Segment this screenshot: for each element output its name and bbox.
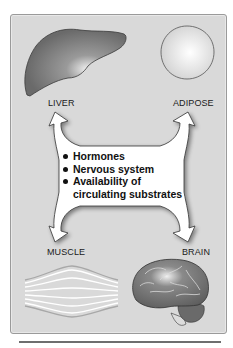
adipose-cell-icon bbox=[161, 26, 214, 79]
brain-icon bbox=[133, 259, 209, 325]
liver-icon bbox=[25, 29, 126, 96]
regulating-factors-list: Hormones Nervous system Availability of … bbox=[62, 150, 192, 200]
liver-label: LIVER bbox=[48, 98, 75, 108]
bullet-icon bbox=[63, 167, 68, 172]
factor-hormones: Hormones bbox=[62, 150, 192, 163]
brain-label: BRAIN bbox=[182, 247, 210, 257]
bottom-divider bbox=[19, 341, 221, 343]
muscle-fiber-icon bbox=[25, 266, 118, 317]
bullet-icon bbox=[63, 154, 68, 159]
muscle-label: MUSCLE bbox=[47, 247, 85, 257]
factor-substrate-availability: Availability of circulating substrates bbox=[62, 175, 192, 200]
bullet-icon bbox=[63, 179, 68, 184]
adipose-label: ADIPOSE bbox=[173, 98, 214, 108]
factor-nervous-system: Nervous system bbox=[62, 163, 192, 176]
